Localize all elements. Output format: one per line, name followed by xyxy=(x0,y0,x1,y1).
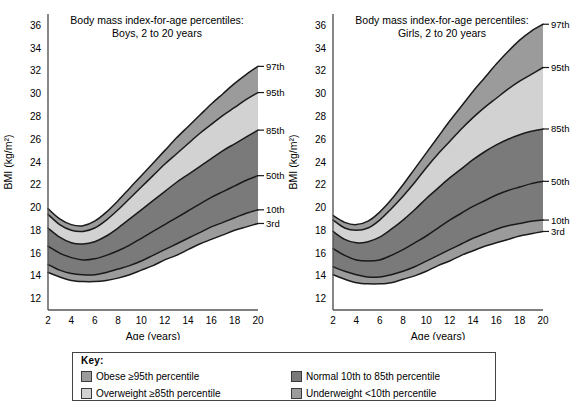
bands-group xyxy=(48,66,258,281)
y-axis-title: BMI (kg/m²) xyxy=(287,135,299,190)
x-tick-12: 12 xyxy=(444,315,456,326)
chart-panel-boys: 97th95th85th50th10th3rd12141618202224262… xyxy=(0,0,285,340)
y-tick-30: 30 xyxy=(315,88,327,99)
y-tick-32: 32 xyxy=(30,65,42,76)
x-tick-labels: 2468101214161820 xyxy=(45,315,264,326)
x-tick-10: 10 xyxy=(421,315,433,326)
x-tick-2: 2 xyxy=(330,315,336,326)
x-axis-title: Age (years) xyxy=(411,330,465,340)
x-tick-16: 16 xyxy=(491,315,503,326)
percentile-label-97th: 97th xyxy=(266,61,285,72)
y-tick-22: 22 xyxy=(30,179,42,190)
bmi-percentile-figure: 97th95th85th50th10th3rd12141618202224262… xyxy=(0,0,570,409)
x-tick-8: 8 xyxy=(115,315,121,326)
legend-column-left: Obese ≥95th percentileOverweight ≥85th p… xyxy=(81,368,220,402)
x-tick-14: 14 xyxy=(182,315,194,326)
percentile-labels-group: 97th95th85th50th10th3rd xyxy=(543,19,570,237)
legend-item-overweight: Overweight ≥85th percentile xyxy=(81,385,220,401)
percentile-labels-group: 97th95th85th50th10th3rd xyxy=(258,61,285,229)
y-tick-18: 18 xyxy=(315,225,327,236)
y-tick-16: 16 xyxy=(315,248,327,259)
legend-label-normal: Normal 10th to 85th percentile xyxy=(306,371,440,382)
y-tick-18: 18 xyxy=(30,225,42,236)
y-tick-26: 26 xyxy=(315,134,327,145)
percentile-label-95th: 95th xyxy=(266,87,285,98)
percentile-label-50th: 50th xyxy=(551,176,570,187)
y-tick-12: 12 xyxy=(30,293,42,304)
legend-label-overweight: Overweight ≥85th percentile xyxy=(96,388,220,399)
x-tick-18: 18 xyxy=(229,315,241,326)
y-tick-30: 30 xyxy=(30,88,42,99)
y-tick-20: 20 xyxy=(30,202,42,213)
y-tick-24: 24 xyxy=(315,157,327,168)
percentile-label-10th: 10th xyxy=(266,204,285,215)
y-tick-labels: 12141618202224262830323436 xyxy=(315,20,327,304)
y-tick-28: 28 xyxy=(315,111,327,122)
x-tick-10: 10 xyxy=(136,315,148,326)
y-tick-14: 14 xyxy=(30,270,42,281)
chart-girls: 97th95th85th50th10th3rd12141618202224262… xyxy=(285,0,570,340)
y-tick-32: 32 xyxy=(315,65,327,76)
x-tick-12: 12 xyxy=(159,315,171,326)
percentile-label-3rd: 3rd xyxy=(551,226,565,237)
y-tick-16: 16 xyxy=(30,248,42,259)
x-tick-8: 8 xyxy=(400,315,406,326)
legend-label-underweight: Underweight <10th percentile xyxy=(306,388,436,399)
x-tick-14: 14 xyxy=(467,315,479,326)
band-normal-band xyxy=(48,130,258,275)
percentile-label-95th: 95th xyxy=(551,62,570,73)
legend-swatch-obese xyxy=(81,371,92,382)
legend-item-underweight: Underweight <10th percentile xyxy=(291,385,440,401)
chart-boys: 97th95th85th50th10th3rd12141618202224262… xyxy=(0,0,285,340)
y-tick-24: 24 xyxy=(30,157,42,168)
percentile-label-10th: 10th xyxy=(551,215,570,226)
percentile-label-85th: 85th xyxy=(266,125,285,136)
y-tick-26: 26 xyxy=(30,134,42,145)
x-tick-6: 6 xyxy=(377,315,383,326)
percentile-label-85th: 85th xyxy=(551,123,570,134)
legend-key-box: Key: Obese ≥95th percentileOverweight ≥8… xyxy=(72,352,496,401)
y-tick-22: 22 xyxy=(315,179,327,190)
chart-subtitle: Boys, 2 to 20 years xyxy=(112,27,202,39)
y-tick-labels: 12141618202224262830323436 xyxy=(30,20,42,304)
chart-title: Body mass index-for-age percentiles: xyxy=(355,14,528,26)
x-tick-6: 6 xyxy=(92,315,98,326)
y-tick-20: 20 xyxy=(315,202,327,213)
percentile-label-50th: 50th xyxy=(266,170,285,181)
x-tick-20: 20 xyxy=(537,315,549,326)
x-axis-title: Age (years) xyxy=(126,330,180,340)
y-tick-36: 36 xyxy=(315,20,327,31)
y-tick-36: 36 xyxy=(30,20,42,31)
legend-swatch-underweight xyxy=(291,388,302,399)
legend-swatch-overweight xyxy=(81,388,92,399)
chart-panel-girls: 97th95th85th50th10th3rd12141618202224262… xyxy=(285,0,570,340)
x-tick-4: 4 xyxy=(69,315,75,326)
y-tick-34: 34 xyxy=(315,43,327,54)
legend-label-obese: Obese ≥95th percentile xyxy=(96,371,199,382)
legend-item-obese: Obese ≥95th percentile xyxy=(81,368,220,384)
y-tick-12: 12 xyxy=(315,293,327,304)
legend-swatch-normal xyxy=(291,371,302,382)
x-tick-labels: 2468101214161820 xyxy=(330,315,549,326)
y-tick-28: 28 xyxy=(30,111,42,122)
legend-title: Key: xyxy=(81,355,103,366)
chart-subtitle: Girls, 2 to 20 years xyxy=(398,27,486,39)
x-tick-20: 20 xyxy=(252,315,264,326)
legend-column-right: Normal 10th to 85th percentileUnderweigh… xyxy=(291,368,440,402)
chart-title: Body mass index-for-age percentiles: xyxy=(70,14,243,26)
percentile-label-3rd: 3rd xyxy=(266,218,280,229)
y-tick-14: 14 xyxy=(315,270,327,281)
percentile-label-97th: 97th xyxy=(551,19,570,30)
x-tick-18: 18 xyxy=(514,315,526,326)
y-tick-34: 34 xyxy=(30,43,42,54)
x-tick-2: 2 xyxy=(45,315,51,326)
x-tick-4: 4 xyxy=(354,315,360,326)
y-axis-title: BMI (kg/m²) xyxy=(2,135,14,190)
x-tick-16: 16 xyxy=(206,315,218,326)
legend-item-normal: Normal 10th to 85th percentile xyxy=(291,368,440,384)
